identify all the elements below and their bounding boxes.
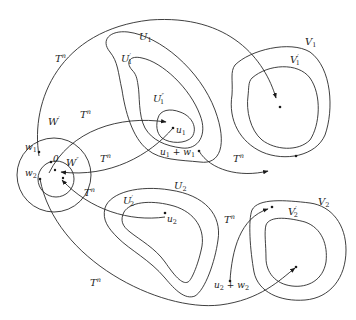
point-w2 [39,178,42,181]
label-zero: 0 [53,154,59,164]
label-tn-u2-to-w: Tn [84,186,95,198]
set-mapping-diagram: U1 U′1 U″1 V1 V′1 U2 U′2 V2 V′2 W′ W″ w1… [0,0,356,320]
label-w2: w2 [25,168,37,180]
label-u1: U1 [139,31,152,44]
region-u2-prime [122,202,202,282]
label-u1-double-prime: U″1 [153,92,164,106]
label-u1-prime: U′1 [121,52,132,66]
label-v1: V1 [305,36,316,49]
label-w-prime: W′ [48,115,60,127]
label-tn-bottom: Tn [90,276,101,288]
region-u2 [104,188,218,296]
arrow-u2-to-w [62,180,165,218]
point-zero [50,161,53,164]
point-u1w1 [198,150,201,153]
label-w-double-prime: W″ [66,156,79,168]
point-u1 [172,127,175,130]
label-u2-plus-w2: u2 + w2 [214,280,249,292]
point-w1 [38,151,41,154]
point-v1-target [279,106,282,109]
point-v1p-target-2 [295,155,298,158]
region-v2 [250,201,346,301]
point-v2-target-top [271,206,274,209]
label-tn-u1w1: Tn [233,152,244,164]
label-v2-prime: V′2 [288,205,298,219]
arrow-u2w2-to-v2-prime-top [230,209,268,281]
region-v1 [231,47,330,157]
arrow-u1-to-w [61,128,173,173]
label-u2: u2 [167,214,177,226]
region-v2-prime [265,218,326,286]
arrow-w1-to-v1-prime [37,19,276,156]
label-tn-u2w2: Tn [224,213,235,225]
label-u1-plus-w1: u1 + w1 [160,147,195,159]
point-w-inner-1 [54,169,56,171]
arrow-w2-to-v2-prime [40,179,295,306]
label-u1: u1 [176,125,186,137]
label-w1: w1 [25,142,37,154]
point-w-inner-2 [62,177,64,179]
label-tn-w-to-u1: Tn [80,108,91,120]
label-u2-prime: U′2 [123,194,134,208]
label-tn-u1-to-w: Tn [100,152,111,164]
point-v2-target-bottom [295,266,298,269]
point-u2 [164,212,167,215]
label-v1-prime: V′1 [290,53,300,67]
region-v1-prime [248,67,319,149]
